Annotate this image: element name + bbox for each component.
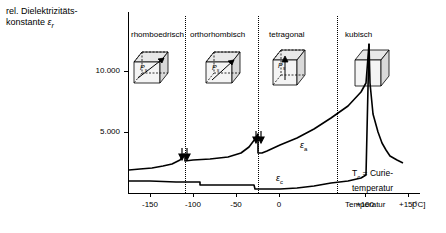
ps-label-orthorhombisch: Ps [212, 64, 219, 73]
transition-arrows [179, 131, 264, 160]
chart-root: rel. Dielektrizitäts- konstante εr 10.00… [0, 0, 446, 233]
crystal-cell-kubisch [355, 50, 389, 86]
curve-label-epsilon-c: εc [276, 173, 283, 185]
curie-eq: = Curie- [360, 168, 393, 178]
curie-annotation: Tc = Curie- temperatur [352, 168, 393, 194]
chart-svg [0, 0, 446, 233]
curve-label-epsilon-a: εa [300, 140, 307, 152]
ps-label-tetragonal: Ps [278, 62, 285, 71]
ps-label-rhomboedrisch: Ps [140, 64, 147, 73]
curie-line2: temperatur [352, 183, 393, 193]
